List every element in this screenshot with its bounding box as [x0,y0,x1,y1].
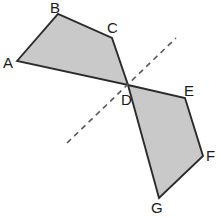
vertex-label-d: D [121,92,132,107]
vertex-label-b: B [50,0,60,15]
vertex-label-g: G [151,200,163,215]
geometry-figure: A B C D E F G [0,0,221,217]
vertex-label-c: C [107,20,118,35]
vertex-label-a: A [3,55,13,70]
vertex-label-e: E [184,83,194,98]
quadrilateral-defg [128,85,203,198]
vertex-label-f: F [206,148,215,163]
